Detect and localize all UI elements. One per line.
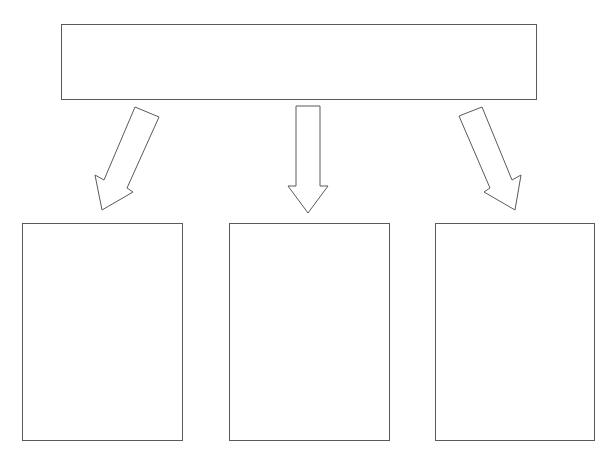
bottom-box-right [435, 223, 595, 441]
bottom-box-middle [229, 223, 390, 441]
bottom-box-left [22, 223, 183, 441]
arrow-down-icon [288, 106, 328, 213]
arrow-down-left-icon [95, 107, 159, 210]
arrow-down-right-icon [459, 107, 521, 210]
